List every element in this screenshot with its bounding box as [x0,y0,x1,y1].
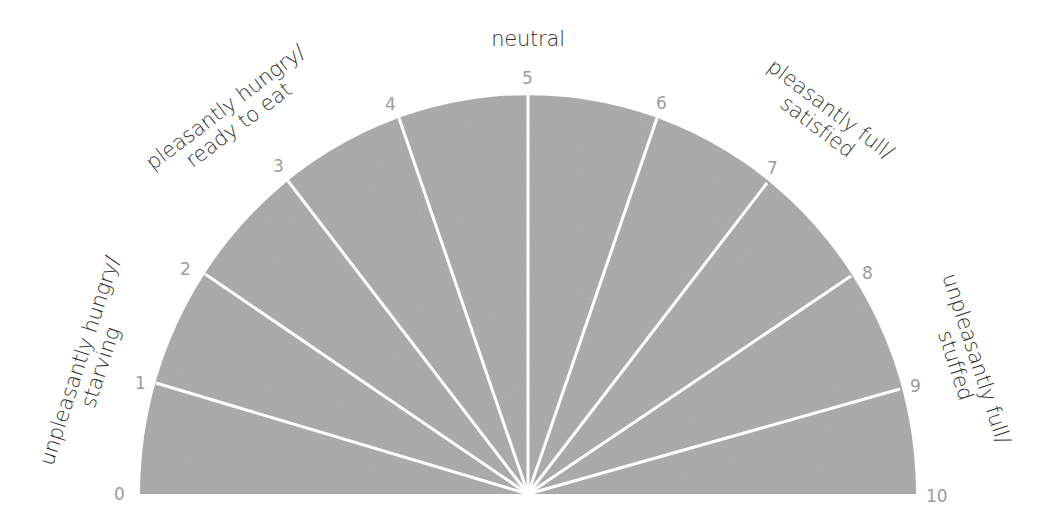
tick-2: 2 [180,259,191,279]
tick-7: 7 [767,158,778,178]
label-neutral: neutral [468,28,588,50]
tick-5: 5 [522,68,533,88]
tick-0: 0 [114,484,125,504]
tick-3: 3 [273,156,284,176]
label-neutral-line1: neutral [468,28,588,50]
tick-1: 1 [135,373,146,393]
tick-4: 4 [385,94,396,114]
tick-10: 10 [926,486,948,506]
hunger-scale-diagram: 0 1 2 3 4 5 6 7 8 9 10 [0,0,1056,532]
tick-8: 8 [862,263,873,283]
tick-9: 9 [910,376,921,396]
tick-6: 6 [656,93,667,113]
